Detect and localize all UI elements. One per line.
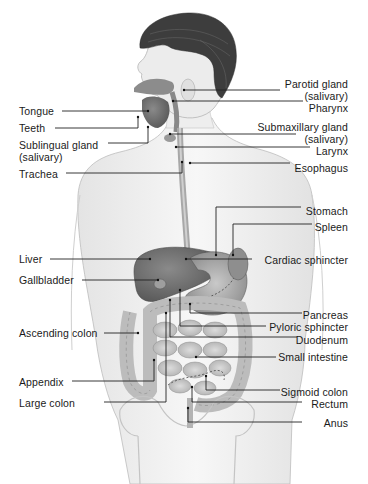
label-esophagus: Esophagus: [295, 162, 348, 174]
label-large-colon: Large colon: [19, 397, 75, 409]
label-rectum: Rectum: [311, 398, 348, 410]
label-sigmoid-colon: Sigmoid colon: [281, 386, 348, 398]
label-duodenum: Duodenum: [296, 334, 348, 346]
label-sublingual-gland: Sublingual gland (salivary): [19, 139, 98, 163]
tongue-shape: [142, 96, 170, 128]
label-liver: Liver: [19, 253, 42, 265]
label-pharynx: Pharynx: [309, 102, 348, 114]
label-parotid-gland-sub: (salivary): [285, 90, 348, 102]
label-sublingual-gland-sub: (salivary): [19, 151, 98, 163]
label-tongue: Tongue: [19, 105, 54, 117]
label-stomach: Stomach: [306, 205, 348, 217]
nasal-cavity: [134, 79, 174, 95]
label-teeth: Teeth: [19, 122, 45, 134]
gallbladder-shape: [154, 279, 166, 289]
label-small-intestine: Small intestine: [278, 351, 348, 363]
label-parotid-gland: Parotid gland (salivary): [285, 78, 348, 102]
label-spleen: Spleen: [315, 221, 348, 233]
label-submaxillary-gland: Submaxillary gland (salivary): [257, 121, 348, 145]
label-sublingual-gland-name: Sublingual gland: [19, 139, 98, 151]
digestive-system-illustration: [0, 0, 368, 484]
label-larynx: Larynx: [316, 145, 348, 157]
label-pyloric-sphincter: Pyloric sphincter: [269, 321, 348, 333]
label-pancreas: Pancreas: [303, 309, 348, 321]
label-submaxillary-gland-sub: (salivary): [257, 133, 348, 145]
label-anus: Anus: [324, 417, 348, 429]
label-trachea: Trachea: [19, 168, 58, 180]
label-appendix: Appendix: [19, 376, 64, 388]
label-cardiac-sphincter: Cardiac sphincter: [265, 254, 348, 266]
spleen-shape: [228, 248, 248, 280]
label-submaxillary-gland-name: Submaxillary gland: [257, 121, 348, 133]
label-parotid-gland-name: Parotid gland: [285, 78, 348, 90]
label-gallbladder: Gallbladder: [19, 274, 74, 286]
label-ascending-colon: Ascending colon: [19, 327, 98, 339]
